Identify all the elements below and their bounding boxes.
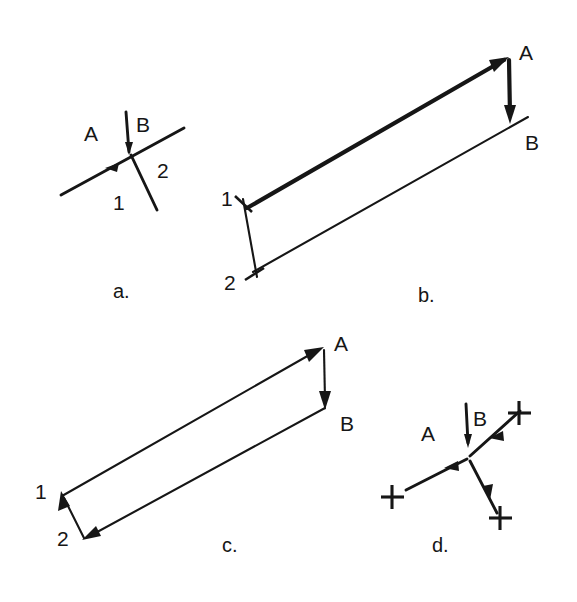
panel-d-cross-lower-left: [381, 485, 404, 509]
panel-a-label-B: B: [136, 114, 150, 135]
panel-d-geometry: [381, 401, 531, 530]
panel-b-label-A: A: [519, 42, 533, 63]
figure-root: A B 1 2 a. A B 1 2 b. A B 1 2 c. A B d.: [0, 0, 577, 602]
panel-a-branch-lower-right: [131, 155, 157, 210]
panel-c-label-A: A: [334, 333, 348, 354]
panel-a-arrowhead-vertical: [125, 142, 133, 155]
panel-c-edge-B-to-2: [88, 408, 325, 537]
panel-c-edge-1-to-A: [62, 350, 318, 496]
panel-b-arrowhead-at-B: [504, 105, 516, 124]
panel-b-edge-1-to-A: [247, 60, 504, 208]
panel-b-geometry: [235, 57, 528, 280]
panel-b-label-2: 2: [224, 272, 236, 293]
panel-a-label-2: 2: [157, 160, 169, 181]
panel-a-caption: a.: [113, 281, 130, 301]
panel-c-caption: c.: [222, 535, 238, 555]
panel-a-label-1: 1: [113, 192, 125, 213]
panel-b-label-1: 1: [221, 188, 233, 209]
panel-d-label-A: A: [421, 423, 435, 444]
panel-b-edge-2-to-B: [253, 117, 528, 272]
panel-b-caption: b.: [418, 285, 435, 305]
panel-c-label-B: B: [340, 413, 354, 434]
panel-a-label-A: A: [84, 123, 98, 144]
panel-b-label-B: B: [525, 132, 539, 153]
panel-b-arrowhead-at-A: [489, 57, 509, 72]
panel-d-cross-lower-right: [489, 506, 512, 530]
panel-d-label-B: B: [473, 408, 487, 429]
panel-c-geometry: [58, 347, 331, 540]
figure-canvas: [0, 0, 577, 602]
panel-d-caption: d.: [432, 535, 449, 555]
panel-c-label-1: 1: [35, 481, 47, 502]
panel-c-arrowhead-at-A: [304, 347, 324, 362]
panel-d-cross-upper-right: [508, 401, 531, 425]
panel-c-label-2: 2: [57, 528, 69, 549]
panel-b-tick-vertex-2: [245, 268, 264, 280]
panel-d-arrowhead-vertical: [464, 434, 472, 448]
